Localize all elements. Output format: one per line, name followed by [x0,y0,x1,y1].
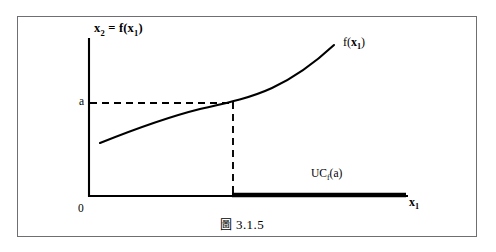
y-axis-label-equals: = f( [105,21,128,35]
function-curve [100,45,334,143]
upper-contour-set-label: UCf(a) [311,168,342,182]
x-axis-label-subscript: 1 [415,202,419,211]
origin-label: 0 [78,203,84,215]
figure-caption: 圖 3.1.5 [220,218,264,231]
y-axis-label-close-paren: ) [139,21,143,35]
y-axis-tick-label-a: a [79,96,84,108]
plot-drawing [0,0,496,252]
figure-container: x2 = f(x1) f(x1) a 0 x1 UCf(a) 圖 3.1.5 [0,0,496,252]
figure-caption-number: 3.1.5 [236,217,264,232]
figure-caption-symbol: 圖 [220,218,232,232]
y-axis-label: x2 = f(x1) [94,22,143,37]
x-axis-label: x1 [409,196,419,212]
curve-label: f(x1) [343,36,365,52]
uc-label-prefix: UC [311,167,327,179]
curve-label-fn: f( [343,35,351,49]
curve-label-close-paren: ) [361,35,365,49]
uc-label-argument: (a) [330,167,343,179]
